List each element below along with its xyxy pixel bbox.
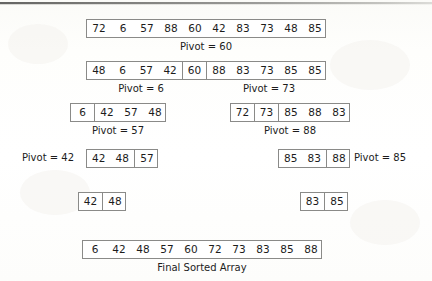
array-row-left-pair: 42 48 [78, 192, 126, 211]
array-cell: 57 [135, 150, 159, 167]
array-cell: 85 [279, 150, 303, 167]
pivot-label-73: Pivot = 73 [212, 83, 326, 94]
array-group-right: 85 88 83 [279, 104, 351, 121]
array-cell: 60 [183, 20, 207, 37]
array-cell: 42 [87, 150, 111, 167]
array-row-right-partition-73: 72 73 85 88 83 [230, 103, 350, 122]
array-cell: 88 [207, 62, 231, 79]
array-group-left: 42 48 [87, 150, 135, 167]
array-group-left: 83 [301, 193, 325, 210]
array-cell: 6 [83, 241, 107, 258]
array-cell: 85 [275, 241, 299, 258]
array-cell: 85 [303, 62, 327, 79]
array-group-pivot: 6 [71, 104, 95, 121]
scan-blotch [8, 24, 68, 64]
array-group-left: 85 83 [279, 150, 327, 167]
array-cell: 6 [111, 62, 135, 79]
scan-blotch [350, 200, 420, 245]
array-cell: 48 [87, 62, 111, 79]
array-cell: 83 [327, 104, 351, 121]
page-top-rule-secondary [0, 4, 432, 5]
array-cell: 88 [303, 104, 327, 121]
array-group: 6 42 48 57 60 72 73 83 85 88 [83, 241, 323, 258]
array-group-pivot: 88 [327, 150, 351, 167]
array-cell: 83 [303, 150, 327, 167]
array-cell: 73 [255, 104, 278, 121]
array-cell: 85 [279, 62, 303, 79]
array-group-left: 42 [79, 193, 103, 210]
array-cell: 48 [111, 150, 135, 167]
array-cell: 73 [227, 241, 251, 258]
array-row-right-partition-88: 85 83 88 [278, 149, 350, 168]
array-cell: 60 [183, 62, 206, 79]
pivot-label-57: Pivot = 57 [70, 125, 166, 136]
array-cell: 42 [158, 62, 182, 79]
array-cell: 57 [155, 241, 179, 258]
array-cell: 72 [231, 104, 254, 121]
array-cell: 85 [325, 193, 349, 210]
array-group-right: 42 57 48 [95, 104, 167, 121]
array-group-right: 48 [103, 193, 127, 210]
pivot-label-60: Pivot = 60 [86, 41, 326, 52]
array-cell: 72 [87, 20, 111, 37]
diagram-page: 72 6 57 88 60 42 83 73 48 85 Pivot = 60 … [0, 0, 432, 281]
array-cell: 85 [303, 20, 327, 37]
pivot-label-42: Pivot = 42 [22, 152, 74, 163]
array-cell: 73 [255, 20, 279, 37]
array-cell: 83 [231, 62, 255, 79]
array-row-left-partition-6: 6 42 57 48 [70, 103, 166, 122]
pivot-label-88: Pivot = 88 [230, 125, 350, 136]
array-cell: 42 [107, 241, 131, 258]
array-cell: 48 [279, 20, 303, 37]
array-cell: 6 [71, 104, 94, 121]
array-row-partition-60: 48 6 57 42 60 88 83 73 85 85 [86, 61, 326, 80]
array-cell: 48 [131, 241, 155, 258]
array-row-initial: 72 6 57 88 60 42 83 73 48 85 [86, 19, 326, 38]
array-group-pivot: 57 [135, 150, 159, 167]
array-cell: 57 [135, 20, 159, 37]
array-cell: 83 [251, 241, 275, 258]
array-cell: 60 [179, 241, 203, 258]
array-cell: 57 [135, 62, 159, 79]
array-group-right: 88 83 73 85 85 [207, 62, 327, 79]
array-cell: 48 [103, 193, 127, 210]
array-cell: 72 [203, 241, 227, 258]
pivot-label-6: Pivot = 6 [86, 83, 196, 94]
array-cell: 73 [255, 62, 279, 79]
array-group-left: 72 [231, 104, 255, 121]
array-cell: 83 [301, 193, 324, 210]
array-group-pivot: 73 [255, 104, 279, 121]
scan-blotch [330, 40, 410, 90]
array-cell: 57 [119, 104, 143, 121]
array-row-final: 6 42 48 57 60 72 73 83 85 88 [82, 240, 322, 259]
array-group-right: 85 [325, 193, 349, 210]
array-cell: 88 [327, 150, 351, 167]
array-cell: 42 [207, 20, 231, 37]
array-group-pivot: 60 [183, 62, 207, 79]
array-cell: 88 [299, 241, 323, 258]
array-cell: 42 [95, 104, 119, 121]
pivot-label-85: Pivot = 85 [354, 152, 406, 163]
array-row-left-partition-57: 42 48 57 [86, 149, 158, 168]
array-cell: 83 [231, 20, 255, 37]
array-group: 72 6 57 88 60 42 83 73 48 85 [87, 20, 327, 37]
array-cell: 6 [111, 20, 135, 37]
array-cell: 48 [143, 104, 167, 121]
array-cell: 42 [79, 193, 102, 210]
array-cell: 85 [279, 104, 303, 121]
array-cell: 88 [159, 20, 183, 37]
array-group-left: 48 6 57 42 [87, 62, 183, 79]
final-sorted-array-caption: Final Sorted Array [82, 262, 322, 273]
array-row-right-pair: 83 85 [300, 192, 348, 211]
